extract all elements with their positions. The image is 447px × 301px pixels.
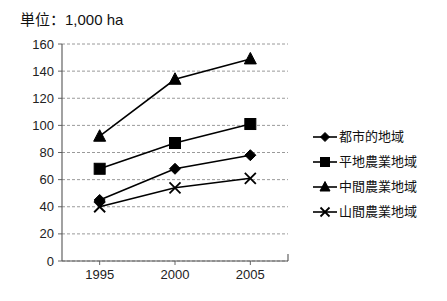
y-tick-label: 80 xyxy=(40,145,54,160)
marker-triangle xyxy=(94,130,106,142)
y-tick-label: 20 xyxy=(40,226,54,241)
legend-item-label: 山間農業地域 xyxy=(339,205,417,219)
y-tick-label: 120 xyxy=(32,91,54,106)
legend-item-1[interactable]: 都市的地域 xyxy=(312,124,444,149)
legend-item-label: 都市的地域 xyxy=(339,130,404,144)
marker-diamond xyxy=(321,132,330,141)
y-tick-label: 100 xyxy=(32,118,54,133)
y-tick-label: 160 xyxy=(32,37,54,52)
x-tick-label: 1995 xyxy=(85,267,114,282)
x-axis-tick-labels: 199520002005 xyxy=(85,267,265,282)
series-line xyxy=(100,59,251,136)
legend-marker-x-icon xyxy=(312,205,338,219)
x-tick-label: 2000 xyxy=(161,267,190,282)
marker-diamond xyxy=(245,150,256,161)
series-1 xyxy=(94,150,256,206)
x-tick-label: 2005 xyxy=(236,267,265,282)
y-tick-label: 60 xyxy=(40,172,54,187)
axis-tickmarks xyxy=(58,44,250,265)
legend-item-label: 中間農業地域 xyxy=(339,180,417,194)
legend-item-label: 平地農業地域 xyxy=(339,155,417,169)
legend-item-4[interactable]: 山間農業地域 xyxy=(312,199,444,224)
y-axis-tick-labels: 020406080100120140160 xyxy=(32,37,54,269)
chart-legend: 都市的地域平地農業地域中間農業地域山間農業地域 xyxy=(312,124,444,224)
y-tick-label: 0 xyxy=(47,254,54,269)
legend-marker-diamond-icon xyxy=(312,130,338,144)
marker-square xyxy=(245,119,256,130)
marker-square xyxy=(321,157,330,166)
marker-square xyxy=(94,163,105,174)
legend-marker-triangle-icon xyxy=(312,180,338,194)
marker-triangle xyxy=(244,52,256,64)
legend-item-2[interactable]: 平地農業地域 xyxy=(312,149,444,174)
marker-square xyxy=(170,138,181,149)
series-line xyxy=(100,178,251,206)
legend-item-3[interactable]: 中間農業地域 xyxy=(312,174,444,199)
marker-diamond xyxy=(170,163,181,174)
legend-marker-square-icon xyxy=(312,155,338,169)
series-line xyxy=(100,155,251,200)
data-series-layer xyxy=(94,52,257,212)
line-chart: 単位：1,000 ha 020406080100120140160 199520… xyxy=(0,0,447,301)
y-tick-label: 40 xyxy=(40,199,54,214)
y-tick-label: 140 xyxy=(32,64,54,79)
